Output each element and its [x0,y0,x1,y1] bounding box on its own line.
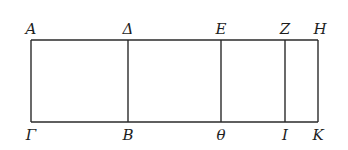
label-point-B: B [121,126,133,144]
label-point-Theta: θ [216,126,225,144]
label-point-H: H [312,20,327,38]
label-point-I: I [281,126,289,144]
geometric-diagram: A Δ E Z H Γ B θ I K [0,0,348,150]
label-point-Gamma: Γ [25,126,37,144]
label-point-E: E [215,20,227,38]
label-point-Z: Z [279,20,291,38]
label-point-K: K [311,126,324,144]
label-point-Delta: Δ [122,20,134,38]
label-point-A: A [24,20,37,38]
